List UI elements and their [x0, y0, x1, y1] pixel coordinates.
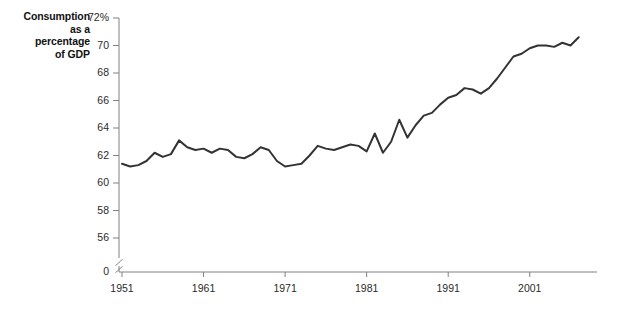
x-axis-tick-label: 1981 [337, 282, 397, 294]
y-axis-tick-label: 72% [60, 11, 109, 23]
y-axis-ticks [113, 18, 119, 238]
y-axis-tick-label: 62 [60, 149, 109, 161]
x-axis-tick-label: 1951 [92, 282, 152, 294]
axis-break-icon [116, 260, 123, 266]
data-series-line [122, 37, 579, 166]
y-axis-tick-label: 66 [60, 94, 109, 106]
y-axis-tick-label: 68 [60, 66, 109, 78]
x-axis-tick-label: 1991 [418, 282, 478, 294]
y-axis-tick-label: 64 [60, 121, 109, 133]
y-axis-tick-label: 60 [60, 176, 109, 188]
x-axis-tick-label: 1961 [174, 282, 234, 294]
y-axis-tick-label: 56 [60, 231, 109, 243]
x-axis-tick-label: 1971 [255, 282, 315, 294]
consumption-gdp-chart: Consumption as a percentage of GDP 72%70… [0, 0, 617, 310]
y-axis-tick-label: 70 [60, 39, 109, 51]
x-axis-tick-label: 2001 [500, 282, 560, 294]
y-axis-tick-label: 58 [60, 204, 109, 216]
y-axis-tick-label: 0 [60, 265, 109, 277]
x-axis-ticks [122, 272, 530, 277]
